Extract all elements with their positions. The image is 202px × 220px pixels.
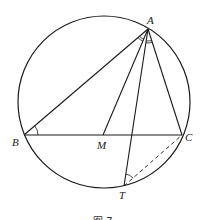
figure-caption: 图 7 [93,216,113,220]
segment-ac [148,29,182,135]
label-t: T [119,189,126,201]
circumcircle [18,16,190,188]
segment-ab [24,29,148,135]
angle-mark-tac [146,40,151,41]
angle-mark-tac-2 [146,42,152,43]
angle-mark-bam [140,36,144,39]
label-a: A [146,14,154,26]
segment-at [124,29,148,186]
label-b: B [12,136,19,148]
label-c: C [185,131,193,143]
segment-tc-dashed [124,135,182,186]
geometry-figure: A B M C T 图 7 [0,0,202,220]
label-m: M [96,139,107,151]
angle-mark-t [126,174,133,178]
angle-mark-b [35,126,38,135]
segment-am [103,29,148,135]
